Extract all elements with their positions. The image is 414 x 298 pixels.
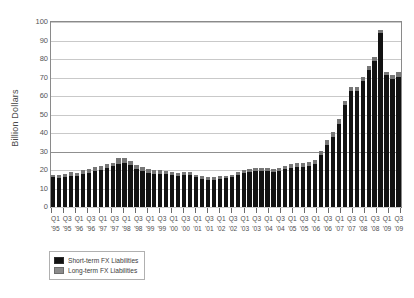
bar-segment-short-term — [265, 171, 269, 207]
bar-segment-short-term — [87, 173, 91, 207]
bar-segment-short-term — [349, 91, 353, 207]
x-axis-tick — [268, 208, 269, 213]
bar-segment-short-term — [63, 177, 67, 207]
bar-segment-short-term — [218, 179, 222, 207]
bar-column — [277, 22, 281, 207]
bar-column — [372, 22, 376, 207]
bar-column — [289, 22, 293, 207]
bar-column — [283, 22, 287, 207]
bar-segment-short-term — [57, 178, 61, 207]
bar-segment-short-term — [289, 168, 293, 207]
bar-column — [134, 22, 138, 207]
bar-column — [194, 22, 198, 207]
bar-segment-short-term — [212, 180, 216, 207]
bar-segment-short-term — [325, 145, 329, 207]
x-axis-tick — [400, 208, 401, 213]
bar-column — [93, 22, 97, 207]
bar-segment-short-term — [337, 124, 341, 207]
bar-column — [301, 22, 305, 207]
bar-segment-short-term — [384, 75, 388, 207]
bar-segment-short-term — [194, 177, 198, 207]
bar-column — [236, 22, 240, 207]
bar-segment-short-term — [390, 79, 394, 207]
y-axis-tick-label: 10 — [4, 183, 48, 192]
x-axis-tick — [75, 208, 76, 213]
bar-segment-short-term — [247, 172, 251, 207]
bar-column — [247, 22, 251, 207]
y-axis-tick-label: 60 — [4, 91, 48, 100]
bar-segment-short-term — [259, 171, 263, 207]
bar-column — [146, 22, 150, 207]
bar-column — [265, 22, 269, 207]
bar-column — [253, 22, 257, 207]
x-axis-tick — [376, 208, 377, 213]
x-axis-tick — [256, 208, 257, 213]
x-axis-tick — [316, 208, 317, 213]
bar-column — [164, 22, 168, 207]
bar-column — [295, 22, 299, 207]
bar-segment-short-term — [164, 174, 168, 207]
y-axis-tick-label: 90 — [4, 35, 48, 44]
bar-column — [259, 22, 263, 207]
bar-segment-short-term — [158, 174, 162, 207]
bar-segment-short-term — [277, 171, 281, 207]
x-axis-tick — [304, 208, 305, 213]
y-axis-tick-label: 0 — [4, 202, 48, 211]
x-axis-tick — [99, 208, 100, 213]
x-axis-tick — [352, 208, 353, 213]
bar-column — [81, 22, 85, 207]
bar-column — [170, 22, 174, 207]
bar-segment-short-term — [224, 178, 228, 207]
bar-column — [51, 22, 55, 207]
bar-segment-short-term — [200, 179, 204, 207]
bar-column — [349, 22, 353, 207]
x-axis-tick — [280, 208, 281, 213]
bar-column — [176, 22, 180, 207]
bar-column — [271, 22, 275, 207]
bar-segment-short-term — [81, 174, 85, 207]
bar-segment-short-term — [170, 175, 174, 207]
x-axis-tick — [63, 208, 64, 213]
bar-column — [361, 22, 365, 207]
bar-segment-short-term — [236, 175, 240, 207]
y-axis-tick-label: 100 — [4, 17, 48, 26]
bar-segment-short-term — [105, 168, 109, 207]
legend-item[interactable]: Short-term FX Liabilities — [54, 256, 138, 265]
bar-column — [319, 22, 323, 207]
legend-label: Long-term FX Liabilities — [68, 267, 137, 274]
bar-column — [69, 22, 73, 207]
x-axis-tick — [292, 208, 293, 213]
x-axis-tick — [135, 208, 136, 213]
x-axis-quarter: Q3 — [394, 214, 400, 224]
bar-column — [99, 22, 103, 207]
bar-column — [378, 22, 382, 207]
chart-legend: Short-term FX LiabilitiesLong-term FX Li… — [49, 251, 145, 280]
y-axis-tick-labels: 1009080706050403020100 — [0, 21, 48, 208]
x-axis-tick — [207, 208, 208, 213]
bar-segment-short-term — [295, 167, 299, 207]
bar-column — [182, 22, 186, 207]
bar-segment-short-term — [319, 155, 323, 207]
y-axis-tick-label: 30 — [4, 146, 48, 155]
bar-segment-short-term — [140, 171, 144, 207]
bar-segment-short-term — [230, 177, 234, 207]
bar-segment-short-term — [378, 33, 382, 207]
x-axis-tick — [159, 208, 160, 213]
bar-column — [367, 22, 371, 207]
bar-column — [325, 22, 329, 207]
bar-column — [87, 22, 91, 207]
bar-segment-short-term — [69, 176, 73, 207]
bar-column — [158, 22, 162, 207]
bar-segment-short-term — [271, 172, 275, 207]
legend-item[interactable]: Long-term FX Liabilities — [54, 266, 138, 275]
bar-segment-short-term — [116, 164, 120, 207]
x-axis-tick — [388, 208, 389, 213]
y-axis-tick-label: 40 — [4, 128, 48, 137]
bar-column — [188, 22, 192, 207]
bar-column — [152, 22, 156, 207]
y-axis-tick-label: 70 — [4, 72, 48, 81]
bar-segment-short-term — [93, 171, 97, 207]
x-axis-tick — [147, 208, 148, 213]
bar-segment-short-term — [396, 77, 400, 207]
bar-segment-short-term — [206, 180, 210, 207]
